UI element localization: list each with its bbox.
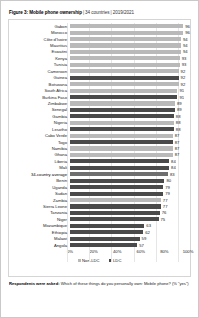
bar-value-label: 79	[165, 191, 170, 196]
x-axis-tick: 20%	[89, 249, 97, 255]
bar-value-label: 77	[163, 198, 168, 203]
bar	[70, 211, 160, 215]
bar-row-label: Gabon	[11, 24, 70, 29]
bar-row-label: Cabo Verde	[11, 133, 70, 138]
bar	[70, 108, 175, 112]
bar-value-label: 92	[181, 75, 186, 80]
bar-value-label: 89	[177, 107, 182, 112]
bar-row-label: Mozambique	[11, 223, 70, 228]
bar-value-label: 96	[185, 30, 190, 35]
bar	[70, 121, 174, 125]
bar-row-label: Botswana	[11, 82, 70, 87]
bar-row-label: Ethiopia	[11, 230, 70, 235]
bar-row-label: Malawi	[11, 236, 70, 241]
bar-row-label: Mali	[11, 165, 70, 170]
x-axis-tick: 40%	[113, 249, 121, 255]
bar-value-label: 62	[145, 230, 150, 235]
bar-row-label: Côte d'Ivoire	[11, 37, 70, 42]
bar-value-label: 89	[177, 101, 182, 106]
bar	[70, 134, 173, 138]
bar-row-label: Kenya	[11, 56, 70, 61]
bar	[70, 185, 163, 189]
x-axis: 0%20%40%60%80%100%	[11, 249, 188, 257]
bar	[70, 237, 140, 241]
bar-value-label: 87	[175, 133, 180, 138]
bar-value-label: 91	[179, 88, 184, 93]
bar-value-label: 83	[170, 172, 175, 177]
figure-title: Figure 3: Mobile phone ownership|34 coun…	[9, 10, 192, 16]
bar-value-label: 75	[161, 217, 166, 222]
legend-label: LDC	[113, 258, 121, 263]
bar-row-label: Zimbabwe	[11, 101, 70, 106]
figure-title-label: Figure 3: Mobile phone ownership	[9, 10, 82, 15]
bar	[70, 179, 164, 183]
bar-row-label: Morocco	[11, 30, 70, 35]
bar-row-label: Togo	[11, 140, 70, 145]
bar-value-label: 84	[171, 165, 176, 170]
x-axis-tick: 0%	[67, 249, 73, 255]
bar	[70, 43, 181, 47]
bar	[70, 243, 137, 247]
bar-row-label: Sierra Leone	[11, 204, 70, 209]
bar-value-label: 87	[175, 146, 180, 151]
bar	[70, 37, 181, 41]
bar-value-label: 77	[163, 204, 168, 209]
bar-row-label: Namibia	[11, 146, 70, 151]
bar-value-label: 91	[179, 95, 184, 100]
footnote: Respondents were asked: Which of these t…	[9, 281, 190, 287]
bar-value-label: 96	[185, 24, 190, 29]
bar-row-label: Tanzania	[11, 210, 70, 215]
bar	[70, 140, 173, 144]
bar	[70, 217, 159, 221]
legend-label: Non-LDC	[82, 258, 99, 263]
bar-row-label: Uganda	[11, 185, 70, 190]
bar	[70, 192, 163, 196]
bar	[70, 159, 169, 163]
figure-title-period: 2019/2021	[113, 10, 134, 15]
bar	[70, 198, 161, 202]
bar	[70, 166, 169, 170]
bar-value-label: 93	[182, 56, 187, 61]
legend-item-ldc[interactable]: LDC	[109, 258, 122, 263]
bar-value-label: 92	[181, 69, 186, 74]
bar	[70, 24, 183, 28]
bar-row-label: Zambia	[11, 198, 70, 203]
bar-row-label: Gambia	[11, 114, 70, 119]
bar	[70, 63, 180, 67]
bar-value-label: 88	[176, 127, 181, 132]
bar-value-label: 93	[182, 62, 187, 67]
legend: Non-LDCLDC	[11, 258, 188, 263]
legend-swatch-icon	[78, 259, 81, 262]
bar-value-label: 94	[183, 37, 188, 42]
bar	[70, 224, 144, 228]
plot-area: Gabon96Morocco96Côte d'Ivoire94Mauritius…	[8, 19, 191, 277]
bar-value-label: 88	[176, 114, 181, 119]
x-axis-tick: 60%	[137, 249, 145, 255]
bar-value-label: 76	[162, 210, 167, 215]
bar	[70, 204, 161, 208]
bar-row-label: 34-country average	[11, 172, 70, 177]
bar-value-label: 94	[183, 43, 188, 48]
bar	[70, 230, 143, 234]
bar-track: 57	[70, 242, 188, 248]
bar-row-label: Nigeria	[11, 120, 70, 125]
bar-row-label: Tunisia	[11, 62, 70, 67]
bar-value-label: 94	[183, 49, 188, 54]
bar	[70, 101, 175, 105]
bar	[70, 172, 168, 176]
bar-row-label: Guinea	[11, 75, 70, 80]
bar	[70, 76, 179, 80]
bar-row-label: Angola	[11, 243, 70, 248]
x-axis-tick: 80%	[160, 249, 168, 255]
figure-title-countries: 34 countries	[85, 10, 109, 15]
figure-card: Figure 3: Mobile phone ownership|34 coun…	[0, 0, 199, 318]
bar-row-label: Benin	[11, 178, 70, 183]
bar-value-label: 88	[176, 120, 181, 125]
bar-row-label: South Africa	[11, 88, 70, 93]
legend-item-non_ldc[interactable]: Non-LDC	[78, 258, 100, 263]
bar-row-label: Burkina Faso	[11, 95, 70, 100]
legend-swatch-icon	[109, 259, 112, 262]
bar	[70, 69, 179, 73]
bar	[70, 56, 180, 60]
bar-value-label: 87	[175, 140, 180, 145]
